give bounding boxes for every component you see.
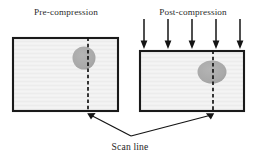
- load-arrow-1: [141, 19, 148, 49]
- post-compression-inclusion: [198, 61, 227, 84]
- scan-line-caption: Scan line: [112, 141, 149, 152]
- load-arrow-2: [165, 19, 172, 49]
- load-arrow-5: [237, 19, 244, 49]
- figure-canvas: Pre-compression Post-compression: [0, 0, 256, 159]
- scan-line-callout: Scan line: [87, 113, 214, 152]
- panel-post-compression: Post-compression: [140, 7, 244, 112]
- post-compression-specimen-block: [140, 51, 244, 111]
- pre-compression-specimen-block: [13, 38, 118, 111]
- scan-line-leader-left: [87, 113, 131, 136]
- panel-pre-compression: Pre-compression: [13, 7, 118, 112]
- load-arrow-4: [213, 19, 220, 49]
- scan-line-leader-right: [131, 113, 214, 136]
- compression-scanline-diagram: Pre-compression Post-compression: [0, 0, 256, 159]
- post-compression-title: Post-compression: [159, 7, 227, 17]
- load-arrow-3: [189, 19, 196, 49]
- pre-compression-inclusion: [73, 47, 96, 70]
- pre-compression-title: Pre-compression: [34, 7, 98, 17]
- load-arrow-group: [141, 19, 244, 49]
